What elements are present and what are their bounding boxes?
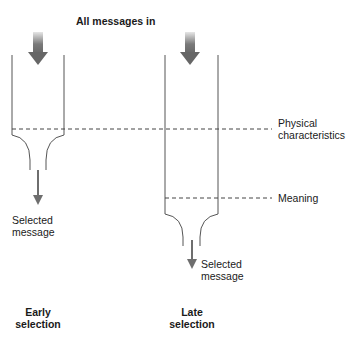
title-label: All messages in	[76, 15, 155, 27]
input-arrow-late	[180, 32, 200, 65]
physical-label-line1: Physical	[278, 117, 345, 129]
early-selection-caption: Early selection	[8, 306, 68, 330]
selection-diagram	[0, 0, 364, 341]
physical-label-line2: characteristics	[278, 129, 345, 141]
input-arrow-early	[28, 32, 48, 65]
early-caption-line2: selection	[8, 318, 68, 330]
meaning-label: Meaning	[278, 192, 318, 204]
output-arrow-early	[33, 170, 43, 205]
early-selected-message-label: Selected message	[12, 214, 55, 238]
late-caption-line1: Late	[162, 306, 222, 318]
early-selection-funnel	[12, 55, 64, 170]
late-output-line1: Selected	[201, 258, 244, 270]
late-selection-caption: Late selection	[162, 306, 222, 330]
late-selection-funnel	[165, 55, 218, 246]
early-output-line2: message	[12, 226, 55, 238]
early-output-line1: Selected	[12, 214, 55, 226]
late-output-line2: message	[201, 270, 244, 282]
output-arrow-late	[187, 240, 197, 269]
early-caption-line1: Early	[8, 306, 68, 318]
late-selected-message-label: Selected message	[201, 258, 244, 282]
late-caption-line2: selection	[162, 318, 222, 330]
physical-characteristics-label: Physical characteristics	[278, 117, 345, 141]
